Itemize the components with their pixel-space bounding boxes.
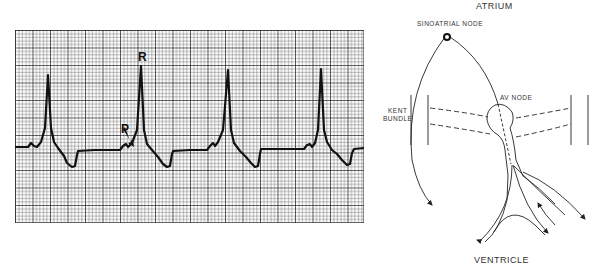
label-ventricle: VENTRICLE (474, 255, 529, 265)
branch-left (477, 165, 512, 241)
sinoatrial-node-icon (444, 34, 450, 40)
label-atrium: ATRIUM (476, 1, 513, 11)
av-ring-upper (430, 108, 488, 117)
r-wave-marker: R (138, 50, 147, 64)
sa-to-av-pathway (450, 37, 498, 104)
conduction-diagram (380, 0, 599, 275)
label-sinoatrial-node: SINOATRIAL NODE (417, 20, 483, 27)
branch-return (538, 203, 555, 225)
ecg-strip (15, 30, 364, 223)
p-wave-marker: P (121, 122, 129, 136)
label-kent-bundle: KENT BUNDLE (383, 107, 412, 123)
label-av-node: AV NODE (500, 94, 532, 101)
